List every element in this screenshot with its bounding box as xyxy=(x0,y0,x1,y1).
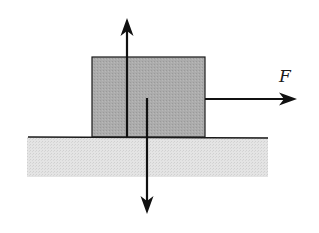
applied-force-arrow xyxy=(205,93,297,106)
free-body-diagram: F xyxy=(0,0,319,233)
force-label-f: F xyxy=(278,66,292,86)
block xyxy=(92,57,205,137)
